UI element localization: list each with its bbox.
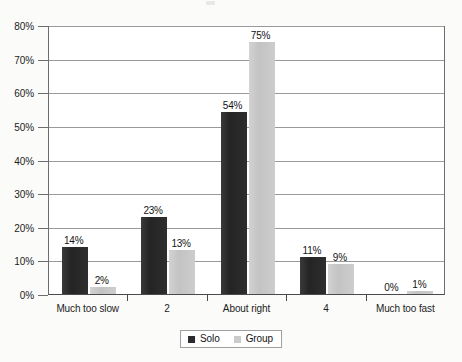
gridline — [49, 194, 444, 195]
y-axis-tick-label: 20% — [14, 222, 34, 233]
bar-solo-2[interactable] — [221, 112, 247, 294]
y-axis-tick-label: 10% — [14, 256, 34, 267]
x-axis-category-label: About right — [223, 303, 270, 314]
y-axis-tick-label: 0% — [20, 290, 34, 301]
x-axis-tick — [286, 295, 287, 301]
y-axis-tick — [38, 261, 48, 262]
plot-area — [48, 26, 445, 295]
gridline — [49, 127, 444, 128]
gridline — [49, 261, 444, 262]
group-swatch-icon — [234, 336, 241, 343]
bar-solo-0[interactable] — [62, 247, 88, 294]
y-axis-tick-label: 50% — [14, 121, 34, 132]
bar-value-label: 9% — [333, 252, 347, 263]
y-axis-tick-label: 40% — [14, 155, 34, 166]
bar-value-label: 1% — [412, 279, 426, 290]
y-axis-tick — [38, 127, 48, 128]
x-axis-category-label: Much too fast — [376, 303, 435, 314]
grouped-bar-chart: 0%10%20%30%40%50%60%70%80% 14%2%23%13%54… — [0, 0, 462, 362]
y-axis-tick-label: 30% — [14, 189, 34, 200]
bar-group-3[interactable] — [328, 264, 354, 294]
y-axis-tick — [38, 26, 48, 27]
bar-group-1[interactable] — [169, 250, 195, 294]
bar-value-label: 54% — [223, 100, 242, 111]
y-axis-tick-label: 70% — [14, 54, 34, 65]
bar-group-2[interactable] — [249, 42, 275, 294]
bar-group-4[interactable] — [407, 291, 433, 294]
gridline — [49, 161, 444, 162]
x-axis-category-label: Much too slow — [56, 303, 119, 314]
bar-value-label: 23% — [143, 205, 162, 216]
solo-swatch-icon — [188, 336, 195, 343]
chart-legend: Solo Group — [180, 330, 282, 348]
bar-value-label: 13% — [171, 238, 190, 249]
y-axis-tick — [38, 60, 48, 61]
gridline — [49, 60, 444, 61]
bar-solo-1[interactable] — [141, 217, 167, 294]
legend-label-group: Group — [246, 334, 273, 344]
bar-value-label: 14% — [64, 235, 83, 246]
x-axis-category-label: 2 — [164, 303, 169, 314]
y-axis-tick-label: 60% — [14, 88, 34, 99]
bar-value-label: 75% — [251, 30, 270, 41]
legend-item-group[interactable]: Group — [234, 334, 273, 344]
legend-label-solo: Solo — [200, 334, 220, 344]
x-axis-tick — [127, 295, 128, 301]
scan-artifact — [206, 1, 215, 5]
bar-solo-3[interactable] — [300, 257, 326, 294]
x-axis-tick — [207, 295, 208, 301]
y-axis-tick-label: 80% — [14, 21, 34, 32]
legend-item-solo[interactable]: Solo — [188, 334, 220, 344]
bar-value-label: 0% — [384, 282, 398, 293]
gridline — [49, 93, 444, 94]
x-axis-tick — [366, 295, 367, 301]
y-axis-tick — [38, 194, 48, 195]
y-axis-tick — [38, 228, 48, 229]
y-axis-tick — [38, 93, 48, 94]
gridline — [49, 26, 444, 27]
bar-value-label: 11% — [303, 245, 322, 256]
bar-group-0[interactable] — [90, 287, 116, 294]
y-axis-tick — [38, 161, 48, 162]
gridline — [49, 228, 444, 229]
bar-value-label: 2% — [95, 275, 109, 286]
y-axis-tick — [38, 295, 48, 296]
x-axis-category-label: 4 — [323, 303, 328, 314]
